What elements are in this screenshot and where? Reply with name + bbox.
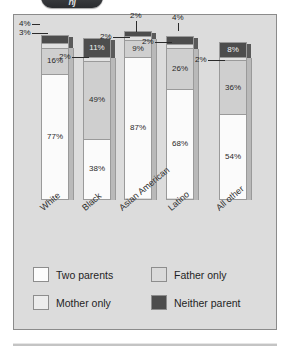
value-label-neither-parent-black: 11% xyxy=(89,44,104,52)
leader-line xyxy=(136,21,137,32)
value-label-father-only-asian-american: 2% xyxy=(100,32,112,41)
segment-neither-parent-all-other: 8% xyxy=(220,43,246,57)
legend-swatch-neither-parent xyxy=(151,295,167,310)
callout-father-only-all-other: 2% xyxy=(195,56,207,64)
logo-badge: nj xyxy=(41,0,103,8)
logo-text: nj xyxy=(41,0,103,7)
value-label-father-only-black: 2% xyxy=(59,52,71,61)
bar-black[interactable]: 11% 49% 38% xyxy=(83,38,111,200)
segment-neither-parent-black: 11% xyxy=(84,39,110,57)
value-label-father-only-all-other: 2% xyxy=(195,55,207,64)
legend-item-two-parents[interactable]: Two parents xyxy=(33,267,113,282)
legend-swatch-two-parents xyxy=(33,267,49,282)
value-label-father-only-latino: 2% xyxy=(142,37,154,46)
bar-asian-american[interactable]: 9% 87% xyxy=(124,31,152,200)
legend-item-neither-parent[interactable]: Neither parent xyxy=(151,295,241,310)
callout-neither-parent-asian-american: 2% xyxy=(130,12,142,20)
segment-two-parents-white: 77% xyxy=(42,74,68,199)
value-label-two-parents-black: 38% xyxy=(89,165,105,173)
legend-item-father-only[interactable]: Father only xyxy=(151,267,227,282)
bar-all-other[interactable]: 8% 36% 54% xyxy=(219,42,247,200)
value-label-neither-parent-latino: 4% xyxy=(172,13,184,22)
leader-line xyxy=(113,37,130,38)
segment-two-parents-latino: 68% xyxy=(167,89,193,198)
leader-line xyxy=(208,60,225,61)
leader-line xyxy=(32,24,40,25)
legend-label-mother-only: Mother only xyxy=(56,297,111,309)
legend-item-mother-only[interactable]: Mother only xyxy=(33,295,111,310)
value-label-mother-only-latino: 26% xyxy=(172,65,188,73)
value-label-neither-parent-white: 4% xyxy=(19,19,31,28)
leader-line xyxy=(32,33,48,34)
value-label-two-parents-all-other: 54% xyxy=(225,153,241,161)
value-label-mother-only-all-other: 36% xyxy=(225,84,241,92)
chart-panel: 16% 77% 4% 3% 11% xyxy=(13,14,277,330)
legend: Two parents Father only Mother only Neit… xyxy=(33,267,261,317)
bottom-divider xyxy=(13,343,277,346)
value-label-two-parents-latino: 68% xyxy=(172,140,188,148)
callout-father-only-black: 2% xyxy=(59,53,71,61)
value-label-mother-only-black: 49% xyxy=(89,96,105,104)
bar-latino[interactable]: 26% 68% xyxy=(166,36,194,200)
callout-neither-parent-white: 4% xyxy=(19,20,31,28)
value-label-father-only-white: 3% xyxy=(19,28,31,37)
leader-line xyxy=(72,57,89,58)
segment-mother-only-all-other: 36% xyxy=(220,60,246,114)
legend-swatch-mother-only xyxy=(33,295,49,310)
legend-label-two-parents: Two parents xyxy=(56,269,113,281)
value-label-neither-parent-asian-american: 2% xyxy=(130,11,142,20)
leader-line xyxy=(155,42,172,43)
segment-mother-only-latino: 26% xyxy=(167,48,193,89)
segment-two-parents-asian-american: 87% xyxy=(125,57,151,198)
leader-line xyxy=(178,23,179,31)
value-label-two-parents-asian-american: 87% xyxy=(130,124,146,132)
callout-neither-parent-latino: 4% xyxy=(172,14,184,22)
callout-father-only-white: 3% xyxy=(19,29,31,37)
legend-label-neither-parent: Neither parent xyxy=(174,297,241,309)
legend-swatch-father-only xyxy=(151,267,167,282)
value-label-neither-parent-all-other: 8% xyxy=(227,46,239,54)
segment-mother-only-black: 49% xyxy=(84,61,110,139)
legend-label-father-only: Father only xyxy=(174,269,227,281)
value-label-two-parents-white: 77% xyxy=(47,133,63,141)
plot-area: 16% 77% 4% 3% 11% xyxy=(14,15,276,200)
callout-father-only-asian-american: 2% xyxy=(100,33,112,41)
segment-two-parents-black: 38% xyxy=(84,139,110,199)
callout-father-only-latino: 2% xyxy=(142,38,154,46)
